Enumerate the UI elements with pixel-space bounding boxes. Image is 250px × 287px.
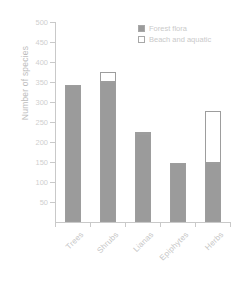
bar-segment-trees-forest-flora bbox=[65, 85, 81, 222]
bar-trees bbox=[65, 85, 81, 222]
x-tick-label-epiphytes: Epiphytes bbox=[157, 230, 189, 262]
y-axis-title: Number of species bbox=[20, 3, 30, 163]
y-tick-mark bbox=[50, 142, 55, 143]
x-tick-mark bbox=[90, 222, 91, 227]
y-tick-mark bbox=[50, 102, 55, 103]
bar-epiphytes bbox=[170, 163, 186, 222]
x-tick-label-lianas: Lianas bbox=[131, 230, 155, 254]
y-tick-mark bbox=[50, 202, 55, 203]
y-tick-label: 350 bbox=[35, 78, 48, 87]
y-tick-mark bbox=[50, 22, 55, 23]
y-tick-mark bbox=[50, 162, 55, 163]
y-tick-label: 200 bbox=[35, 138, 48, 147]
legend-swatch-icon-beach-and-aquatic bbox=[138, 36, 145, 43]
x-tick-mark bbox=[125, 222, 126, 227]
x-tick-label-herbs: Herbs bbox=[203, 230, 225, 252]
x-tick-mark bbox=[195, 222, 196, 227]
y-tick-mark bbox=[50, 62, 55, 63]
x-tick-mark bbox=[230, 222, 231, 227]
chart-legend: Forest flora Beach and aquatic bbox=[138, 24, 211, 46]
x-tick-label-shrubs: Shrubs bbox=[95, 230, 120, 255]
y-tick-label: 250 bbox=[35, 118, 48, 127]
bar-segment-lianas-forest-flora bbox=[135, 134, 151, 222]
y-tick-mark bbox=[50, 182, 55, 183]
y-tick-label: 150 bbox=[35, 158, 48, 167]
legend-label-beach-and-aquatic: Beach and aquatic bbox=[149, 35, 211, 44]
bar-herbs bbox=[205, 111, 221, 222]
bar-segment-shrubs-forest-flora bbox=[100, 82, 116, 222]
bar-lianas bbox=[135, 132, 151, 222]
bar-segment-lianas-beach-and-aquatic bbox=[135, 132, 151, 134]
legend-label-forest-flora: Forest flora bbox=[149, 24, 187, 33]
bar-segment-herbs-beach-and-aquatic bbox=[205, 111, 221, 163]
x-tick-mark bbox=[160, 222, 161, 227]
y-tick-label: 450 bbox=[35, 38, 48, 47]
y-axis-line bbox=[55, 22, 56, 222]
x-axis-line bbox=[55, 222, 230, 223]
legend-item-beach-and-aquatic: Beach and aquatic bbox=[138, 35, 211, 44]
y-tick-mark bbox=[50, 82, 55, 83]
legend-item-forest-flora: Forest flora bbox=[138, 24, 211, 33]
x-tick-label-trees: Trees bbox=[64, 230, 85, 251]
bar-chart: Number of species 5004504003503002502001… bbox=[0, 0, 250, 287]
y-tick-label: 100 bbox=[35, 178, 48, 187]
y-tick-label: 50 bbox=[40, 198, 48, 207]
y-tick-label: 500 bbox=[35, 18, 48, 27]
bar-shrubs bbox=[100, 72, 116, 222]
legend-swatch-icon-forest-flora bbox=[138, 25, 145, 32]
y-tick-label: 300 bbox=[35, 98, 48, 107]
bar-segment-herbs-forest-flora bbox=[205, 163, 221, 222]
plot-area: 50045040035030025020015010050 TreesShrub… bbox=[55, 22, 230, 222]
y-tick-mark bbox=[50, 122, 55, 123]
bar-segment-shrubs-beach-and-aquatic bbox=[100, 72, 116, 82]
y-tick-label: 400 bbox=[35, 58, 48, 67]
bar-segment-epiphytes-forest-flora bbox=[170, 163, 186, 222]
y-tick-mark bbox=[50, 42, 55, 43]
x-tick-mark bbox=[55, 222, 56, 227]
